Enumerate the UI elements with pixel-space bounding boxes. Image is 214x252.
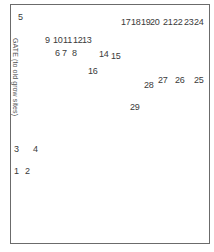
- site-label-17: 17: [121, 17, 131, 27]
- site-label-23: 23: [184, 17, 194, 27]
- site-label-10: 10: [53, 35, 63, 45]
- site-label-22: 22: [173, 17, 183, 27]
- site-label-16: 16: [88, 66, 98, 76]
- site-label-15: 15: [111, 51, 121, 61]
- site-label-1: 1: [14, 166, 19, 176]
- site-label-5: 5: [18, 12, 23, 22]
- site-label-21: 21: [163, 17, 173, 27]
- site-label-20: 20: [150, 17, 160, 27]
- site-label-28: 28: [144, 80, 154, 90]
- diagram-frame: [10, 4, 210, 244]
- site-label-25: 25: [194, 75, 204, 85]
- site-label-18: 18: [131, 17, 141, 27]
- site-label-3: 3: [14, 144, 19, 154]
- site-label-26: 26: [175, 75, 185, 85]
- site-label-8: 8: [72, 48, 77, 58]
- site-label-9: 9: [45, 35, 50, 45]
- site-label-13: 13: [82, 35, 92, 45]
- site-label-11: 11: [63, 35, 72, 45]
- site-label-7: 7: [62, 48, 67, 58]
- site-label-6: 6: [55, 48, 60, 58]
- gate-label: GATE (to old grow sites): [12, 38, 19, 116]
- site-label-2: 2: [25, 166, 30, 176]
- site-label-27: 27: [158, 75, 168, 85]
- site-label-4: 4: [33, 144, 38, 154]
- site-label-14: 14: [99, 49, 109, 59]
- site-label-24: 24: [194, 17, 204, 27]
- site-label-29: 29: [130, 102, 140, 112]
